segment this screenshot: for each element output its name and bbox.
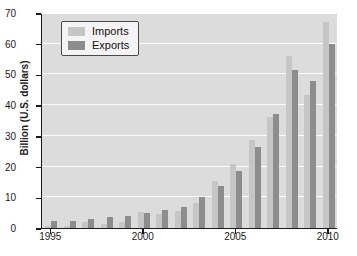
bar-exports — [199, 197, 205, 228]
bar-cluster — [283, 14, 302, 228]
x-tick-label: 2000 — [123, 232, 163, 242]
legend-swatch-imports — [68, 27, 85, 36]
y-tick-label: 10 — [0, 193, 16, 203]
legend-swatch-exports — [68, 41, 85, 50]
y-tick-label: 20 — [0, 163, 16, 173]
bar-exports — [162, 210, 168, 228]
x-tick-label: 1995 — [30, 232, 70, 242]
bar-exports — [181, 207, 187, 228]
x-tick-label: 2010 — [308, 232, 348, 242]
y-tick-label: 0 — [0, 224, 16, 234]
y-tick-label: 60 — [0, 40, 16, 50]
bar-cluster — [209, 14, 228, 228]
bar-exports — [107, 217, 113, 228]
x-tick-label: 2005 — [215, 232, 255, 242]
legend-item-imports: Imports — [68, 26, 129, 37]
y-tick-label: 30 — [0, 132, 16, 142]
bar-exports — [144, 213, 150, 228]
bar-exports — [329, 44, 335, 228]
legend-label-exports: Exports — [92, 40, 129, 51]
bar-exports — [273, 114, 279, 228]
bar-exports — [88, 219, 94, 228]
bar-cluster — [42, 14, 61, 228]
bar-exports — [255, 147, 261, 228]
bar-exports — [70, 221, 76, 228]
bar-exports — [310, 81, 316, 228]
legend-label-imports: Imports — [92, 26, 129, 37]
y-tick-label: 40 — [0, 101, 16, 111]
y-tick-label: 70 — [0, 9, 16, 19]
bar-cluster — [301, 14, 320, 228]
bar-exports — [218, 186, 224, 228]
bar-exports — [292, 70, 298, 228]
bar-cluster — [227, 14, 246, 228]
y-tick-label: 50 — [0, 70, 16, 80]
bar-cluster — [190, 14, 209, 228]
y-axis-title: Billion (U.S. dollars) — [19, 28, 30, 188]
bar-exports — [125, 216, 131, 228]
bar-cluster — [264, 14, 283, 228]
bar-cluster — [153, 14, 172, 228]
bar-cluster — [246, 14, 265, 228]
bar-exports — [51, 221, 57, 228]
bar-cluster — [172, 14, 191, 228]
chart-legend: Imports Exports — [61, 21, 139, 56]
bar-cluster — [320, 14, 338, 228]
bar-exports — [236, 171, 242, 228]
legend-item-exports: Exports — [68, 40, 129, 51]
bar-chart: Billion (U.S. dollars) 010203040506070 1… — [0, 0, 357, 256]
